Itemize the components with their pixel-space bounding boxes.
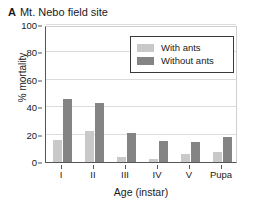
bar-without-ants[interactable] — [127, 133, 136, 162]
bar-without-ants[interactable] — [191, 142, 200, 162]
y-tick-label: 40 — [26, 103, 37, 113]
x-tick-label: III — [121, 170, 129, 180]
y-tick-label: 0 — [32, 158, 37, 168]
bar-with-ants[interactable] — [85, 131, 94, 162]
y-tick-mark — [38, 108, 42, 109]
gridline — [46, 24, 236, 25]
chart-title: A Mt. Nebo field site — [8, 6, 108, 18]
y-tick-mark — [38, 135, 42, 136]
bar-with-ants[interactable] — [117, 157, 126, 162]
x-tick-label: Pupa — [210, 170, 232, 180]
bar-with-ants[interactable] — [213, 152, 222, 162]
x-tick-label: V — [186, 170, 192, 180]
x-tick-label: II — [90, 170, 95, 180]
y-axis-ticks: 020406080100 — [0, 26, 42, 163]
bar-without-ants[interactable] — [95, 103, 104, 162]
panel-letter: A — [8, 6, 16, 18]
bar-with-ants[interactable] — [53, 140, 62, 162]
y-tick-label: 20 — [26, 131, 37, 141]
chart-figure: A Mt. Nebo field site % mortality 020406… — [0, 0, 253, 215]
bar-without-ants[interactable] — [63, 99, 72, 162]
legend-label-without-ants: Without ants — [161, 56, 214, 66]
y-tick-label: 100 — [21, 21, 37, 31]
y-tick-mark — [38, 53, 42, 54]
page-title: Mt. Nebo field site — [20, 6, 108, 18]
x-tick-label: I — [60, 170, 63, 180]
x-axis-ticks: IIIIIIIVVPupa — [45, 165, 237, 179]
bar-with-ants[interactable] — [181, 154, 190, 162]
y-tick-mark — [38, 80, 42, 81]
legend-label-with-ants: With ants — [161, 43, 201, 53]
y-tick-label: 60 — [26, 76, 37, 86]
bar-group — [85, 27, 104, 162]
chart-legend: With ants Without ants — [130, 36, 234, 73]
x-axis-label: Age (instar) — [45, 186, 237, 198]
y-tick-mark — [38, 163, 42, 164]
x-tick-label: IV — [153, 170, 162, 180]
legend-swatch-icon-without-ants — [137, 57, 154, 65]
legend-item-with-ants: With ants — [137, 41, 227, 54]
y-tick-label: 80 — [26, 49, 37, 59]
y-tick-mark — [38, 26, 42, 27]
bar-without-ants[interactable] — [159, 141, 168, 162]
legend-swatch-icon-with-ants — [137, 44, 154, 52]
bar-without-ants[interactable] — [223, 137, 232, 162]
bar-with-ants[interactable] — [149, 159, 158, 162]
bar-group — [53, 27, 72, 162]
legend-item-without-ants: Without ants — [137, 54, 227, 67]
